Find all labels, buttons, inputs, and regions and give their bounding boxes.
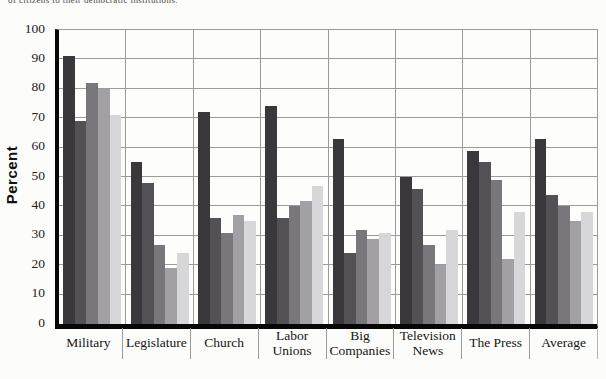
y-tick-label-50: 50 bbox=[5, 169, 45, 183]
bar bbox=[379, 233, 391, 324]
y-tick-label-80: 80 bbox=[5, 80, 45, 94]
y-tick-label-20: 20 bbox=[5, 257, 45, 271]
category-column-6 bbox=[396, 30, 463, 324]
bar bbox=[558, 206, 570, 324]
bar bbox=[312, 186, 324, 324]
bar bbox=[535, 139, 547, 324]
category-column-8 bbox=[531, 30, 597, 324]
category-label-8: Average bbox=[530, 328, 598, 359]
category-label-1: Military bbox=[55, 328, 123, 359]
bar bbox=[75, 121, 87, 324]
bar bbox=[233, 215, 245, 324]
bar bbox=[546, 195, 558, 324]
plot-columns bbox=[59, 30, 597, 324]
y-tick-label-100: 100 bbox=[5, 22, 45, 36]
bar bbox=[367, 239, 379, 324]
category-label-5: Big Companies bbox=[327, 328, 395, 359]
y-axis-ticks: 0102030405060708090100 bbox=[0, 29, 50, 323]
bar bbox=[63, 56, 75, 324]
bar bbox=[154, 245, 166, 324]
category-label-7: The Press bbox=[462, 328, 530, 359]
y-tick-label-90: 90 bbox=[5, 51, 45, 65]
plot-area bbox=[55, 29, 598, 329]
category-column-2 bbox=[126, 30, 193, 324]
y-tick-label-30: 30 bbox=[5, 227, 45, 241]
bar bbox=[333, 139, 345, 324]
bar bbox=[300, 201, 312, 324]
y-tick-label-10: 10 bbox=[5, 286, 45, 300]
bar bbox=[570, 221, 582, 324]
bar bbox=[344, 253, 356, 324]
y-tick-label-40: 40 bbox=[5, 198, 45, 212]
bar bbox=[446, 230, 458, 324]
scanned-page: of citizens to their democratic institut… bbox=[0, 0, 606, 379]
bar bbox=[221, 233, 233, 324]
bar-chart: Percent 0102030405060708090100 MilitaryL… bbox=[0, 0, 606, 379]
bar bbox=[435, 265, 447, 324]
bar bbox=[177, 253, 189, 324]
category-column-7 bbox=[463, 30, 530, 324]
category-label-4: Labor Unions bbox=[259, 328, 327, 359]
bar bbox=[467, 151, 479, 324]
category-column-1 bbox=[59, 30, 126, 324]
bar bbox=[131, 162, 143, 324]
bar bbox=[98, 89, 110, 324]
bar bbox=[86, 83, 98, 324]
bar bbox=[356, 230, 368, 324]
category-column-5 bbox=[329, 30, 396, 324]
bar bbox=[412, 189, 424, 324]
bar bbox=[400, 177, 412, 324]
bar bbox=[514, 212, 526, 324]
bar bbox=[277, 218, 289, 324]
bar bbox=[110, 115, 122, 324]
bar bbox=[491, 180, 503, 324]
category-label-6: Television News bbox=[394, 328, 462, 359]
x-axis-labels: MilitaryLegislatureChurchLabor UnionsBig… bbox=[55, 328, 598, 359]
y-tick-label-0: 0 bbox=[5, 316, 45, 330]
bar bbox=[165, 268, 177, 324]
bar bbox=[265, 106, 277, 324]
bar bbox=[423, 245, 435, 324]
y-tick-label-70: 70 bbox=[5, 110, 45, 124]
bar bbox=[479, 162, 491, 324]
category-label-2: Legislature bbox=[123, 328, 191, 359]
bar bbox=[581, 212, 593, 324]
category-column-3 bbox=[194, 30, 261, 324]
bar bbox=[289, 206, 301, 324]
bar bbox=[142, 183, 154, 324]
bar bbox=[244, 221, 256, 324]
bar bbox=[502, 259, 514, 324]
bar bbox=[210, 218, 222, 324]
bar bbox=[198, 112, 210, 324]
category-column-4 bbox=[261, 30, 328, 324]
category-label-3: Church bbox=[191, 328, 259, 359]
y-tick-label-60: 60 bbox=[5, 139, 45, 153]
